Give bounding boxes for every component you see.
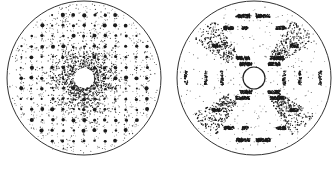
diffraction-pattern-left [7, 1, 161, 155]
figure-canvas [0, 0, 336, 177]
beam-stop-hole [74, 68, 94, 88]
beam-stop-hole [243, 67, 265, 89]
figure [0, 0, 336, 177]
diffraction-pattern-right [177, 1, 331, 155]
